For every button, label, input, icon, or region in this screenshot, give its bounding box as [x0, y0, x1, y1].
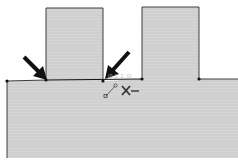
- vertex-base-left-corner[interactable]: [5, 79, 8, 82]
- cursor-coordinate-readout: (0.1, 2, 0): [108, 73, 132, 79]
- vertex-right-boss-left-corner[interactable]: [140, 77, 143, 80]
- base-region[interactable]: [7, 79, 238, 158]
- right-boss-region[interactable]: [142, 7, 199, 80]
- left-boss-region[interactable]: [46, 8, 103, 81]
- arrow-left-icon: [24, 57, 47, 80]
- sketch-canvas[interactable]: [0, 0, 238, 163]
- vertex-left-boss-right-corner[interactable]: [101, 79, 104, 82]
- vertex-right-boss-right-corner[interactable]: [197, 77, 200, 80]
